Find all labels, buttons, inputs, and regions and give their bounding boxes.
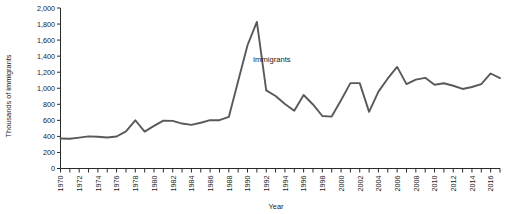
x-tick-label: 2010 bbox=[430, 176, 439, 192]
x-tick-label: 1998 bbox=[318, 176, 327, 192]
chart-canvas: 02004006008001,0001,2001,4001,6001,8002,… bbox=[0, 0, 505, 214]
x-tick-label: 1970 bbox=[56, 176, 65, 192]
x-tick-label: 1986 bbox=[206, 176, 215, 192]
x-tick-label: 2012 bbox=[449, 176, 458, 192]
y-tick-label: 2,000 bbox=[37, 4, 55, 13]
y-tick-label: 200 bbox=[43, 148, 55, 157]
x-tick-label: 2006 bbox=[393, 176, 402, 192]
x-tick-label: 1976 bbox=[112, 176, 121, 192]
x-tick-label: 2004 bbox=[374, 176, 383, 192]
y-tick-label: 0 bbox=[51, 164, 55, 173]
x-tick-label: 2000 bbox=[337, 176, 346, 192]
x-tick-label: 1972 bbox=[75, 176, 84, 192]
y-tick-label: 600 bbox=[43, 116, 55, 125]
x-tick-label: 1982 bbox=[169, 176, 178, 192]
x-tick-label: 1990 bbox=[243, 176, 252, 192]
y-tick-label: 1,000 bbox=[37, 84, 55, 93]
series-label-immigrants: Immigrants bbox=[253, 55, 291, 64]
x-tick-label: 1974 bbox=[94, 176, 103, 192]
x-tick-label: 1988 bbox=[225, 176, 234, 192]
y-tick-label: 1,400 bbox=[37, 52, 55, 61]
y-tick-label: 1,200 bbox=[37, 68, 55, 77]
y-axis-tick-marks bbox=[57, 8, 61, 169]
immigration-line-chart: 02004006008001,0001,2001,4001,6001,8002,… bbox=[0, 0, 505, 214]
x-axis-tick-labels: 1970197219741976197819801982198419861988… bbox=[56, 176, 495, 192]
x-tick-label: 2016 bbox=[486, 176, 495, 192]
x-tick-label: 1994 bbox=[281, 176, 290, 192]
x-tick-label: 1978 bbox=[131, 176, 140, 192]
y-tick-label: 1,600 bbox=[37, 36, 55, 45]
x-tick-label: 1992 bbox=[262, 176, 271, 192]
x-axis-tick-marks bbox=[61, 169, 501, 173]
y-tick-label: 1,800 bbox=[37, 20, 55, 29]
x-tick-label: 2014 bbox=[468, 176, 477, 192]
y-axis-tick-labels: 02004006008001,0001,2001,4001,6001,8002,… bbox=[37, 4, 55, 174]
x-tick-label: 1996 bbox=[299, 176, 308, 192]
x-axis-title: Year bbox=[269, 202, 284, 211]
y-tick-label: 800 bbox=[43, 100, 55, 109]
immigrants-data-line bbox=[61, 22, 501, 139]
x-tick-label: 1980 bbox=[150, 176, 159, 192]
x-tick-label: 2002 bbox=[356, 176, 365, 192]
y-axis-title: Thousands of immigrants bbox=[4, 54, 13, 137]
x-tick-label: 2008 bbox=[412, 176, 421, 192]
x-tick-label: 1984 bbox=[187, 176, 196, 192]
y-tick-label: 400 bbox=[43, 132, 55, 141]
